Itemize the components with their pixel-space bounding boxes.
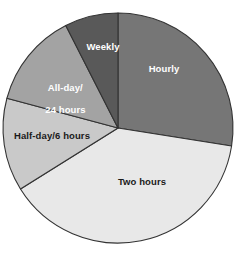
- pie-slice-group: [3, 13, 233, 243]
- pie-slice-hourly: [118, 13, 233, 146]
- pie-chart-canvas: [0, 0, 241, 253]
- pie-chart-figure: Hourly Weekly All-day/ 24 hours Half-day…: [0, 0, 241, 253]
